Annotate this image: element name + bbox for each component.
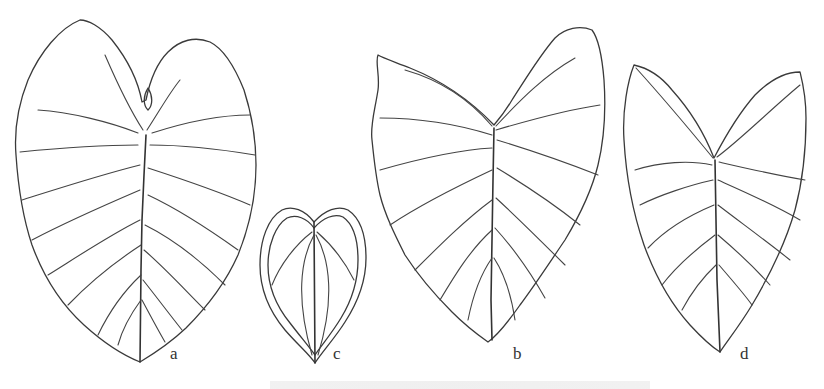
leaf-drawings — [0, 0, 824, 389]
leaf-c-drawing — [260, 208, 366, 363]
leaf-d-drawing — [624, 65, 806, 352]
figure-caption-faint — [270, 381, 650, 389]
leaf-label-b: b — [513, 345, 522, 362]
leaf-a-drawing — [16, 20, 257, 362]
leaf-label-d: d — [740, 345, 749, 362]
leaf-b-drawing — [372, 28, 605, 342]
leaf-label-a: a — [170, 345, 178, 362]
leaf-illustration-figure: a c b d — [0, 0, 824, 389]
leaf-label-c: c — [333, 345, 341, 362]
